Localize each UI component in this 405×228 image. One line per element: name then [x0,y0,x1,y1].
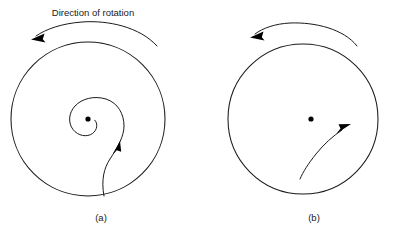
panel-a-spiral-curve [70,98,124,196]
panel-b-rotation-arrow-arc [255,23,357,46]
panel-b-circle-outline [228,44,378,194]
panel-b-center-dot [308,116,313,121]
panel-b-group: (b) [228,23,378,223]
direction-of-rotation-caption: Direction of rotation [52,7,134,18]
panel-b-path-curve [300,130,342,179]
panel-a-spiral-path [70,98,124,196]
panel-b-path [300,124,351,179]
rotation-figure: (a) (b) Direction of rotation [0,0,405,228]
figure-canvas: (a) (b) Direction of rotation [0,0,405,228]
panel-b-path-arrow-head [337,124,352,134]
panel-b-rotation-arrow [250,23,357,46]
panel-a-center-dot [85,116,90,121]
panel-a-group: (a) [11,22,165,223]
panel-b-label: (b) [308,212,320,223]
panel-a-label: (a) [95,212,107,223]
panel-a-spiral-arrow-head [113,141,122,155]
